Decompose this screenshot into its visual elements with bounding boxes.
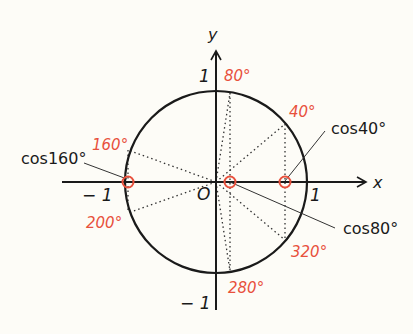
callout-labels: cos40° cos160° cos80° [21, 119, 398, 238]
angle-label-160: 160° [92, 136, 128, 154]
angle-label-200: 200° [86, 214, 122, 232]
angle-label-320: 320° [291, 243, 327, 261]
y-tick-neg-1: − 1 [180, 293, 210, 313]
x-tick-1: 1 [310, 185, 321, 205]
leader-cos40 [285, 131, 325, 181]
unit-circle-diagram: y x O 1 − 1 1 − 1 80° 40° 160° 200° 320°… [0, 0, 413, 334]
axes [62, 51, 366, 310]
angle-label-40: 40° [289, 103, 316, 121]
y-axis-label: y [207, 25, 218, 44]
radius-160 [128, 150, 216, 182]
leader-cos160 [84, 163, 127, 179]
callout-cos160: cos160° [21, 149, 86, 168]
radius-280 [216, 182, 230, 271]
radius-40 [216, 124, 285, 182]
x-tick-neg-1: − 1 [82, 185, 112, 205]
angle-label-80: 80° [224, 67, 251, 85]
x-axis-label: x [372, 173, 383, 192]
radius-80 [216, 93, 230, 182]
callout-cos40: cos40° [331, 119, 386, 138]
y-tick-1: 1 [199, 66, 210, 86]
angle-label-280: 280° [228, 279, 264, 297]
callout-cos80: cos80° [343, 219, 398, 238]
origin-label: O [197, 184, 210, 204]
